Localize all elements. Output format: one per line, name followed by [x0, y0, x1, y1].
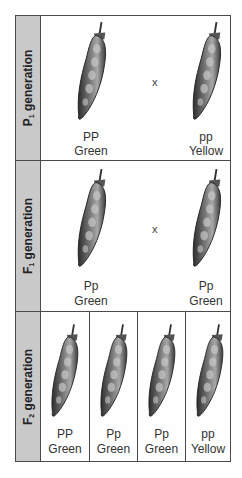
f1-pod-1: Pp Green	[61, 161, 121, 311]
cross-symbol: x	[152, 223, 158, 235]
p1-pod-2: pp Yellow	[176, 16, 236, 160]
f1-generation-row: F1 generation Pp Green x Pp Green	[16, 161, 230, 312]
phenotype-label: Green	[61, 294, 121, 308]
pea-pod-icon	[96, 322, 132, 422]
f2-pod-4: pp Yellow	[185, 312, 230, 461]
p1-side-panel: P1 generation	[16, 16, 41, 160]
f1-generation-label: F1 generation	[21, 198, 35, 274]
genetics-cross-diagram: P1 generation PP Green x pp Yellow F1 ge…	[15, 15, 231, 462]
phenotype-label: Green	[176, 294, 236, 308]
phenotype-label: Green	[61, 144, 121, 158]
pea-pod-icon	[73, 20, 111, 125]
f1-side-panel: F1 generation	[16, 161, 41, 311]
pea-pod-icon	[192, 322, 228, 422]
cross-symbol: x	[152, 76, 158, 88]
genotype-label: Pp	[138, 427, 185, 441]
genotype-label: Pp	[176, 279, 236, 293]
genotype-label: Pp	[61, 279, 121, 293]
genotype-label: Pp	[90, 427, 137, 441]
pea-pod-icon	[47, 322, 83, 422]
phenotype-label: Green	[138, 442, 185, 456]
genotype-label: pp	[186, 427, 230, 441]
p1-generation-row: P1 generation PP Green x pp Yellow	[16, 16, 230, 161]
genotype-label: PP	[41, 427, 89, 441]
phenotype-label: Yellow	[176, 144, 236, 158]
f2-generation-label: F2 generation	[21, 349, 35, 425]
phenotype-label: Yellow	[186, 442, 230, 456]
p1-generation-label: P1 generation	[21, 50, 35, 127]
genotype-label: PP	[61, 130, 121, 144]
pea-pod-icon	[144, 322, 180, 422]
f1-pod-2: Pp Green	[176, 161, 236, 311]
phenotype-label: Green	[90, 442, 137, 456]
pea-pod-icon	[188, 167, 226, 272]
phenotype-label: Green	[41, 442, 89, 456]
p1-pod-1: PP Green	[61, 16, 121, 160]
f2-pod-3: Pp Green	[137, 312, 185, 461]
genotype-label: pp	[176, 130, 236, 144]
f2-pod-2: Pp Green	[89, 312, 137, 461]
pea-pod-icon	[73, 167, 111, 272]
f2-side-panel: F2 generation	[16, 312, 41, 461]
f2-pod-1: PP Green	[41, 312, 89, 461]
pea-pod-icon	[188, 20, 226, 125]
f2-generation-row: F2 generation PP Green Pp Green Pp Green…	[16, 312, 230, 461]
